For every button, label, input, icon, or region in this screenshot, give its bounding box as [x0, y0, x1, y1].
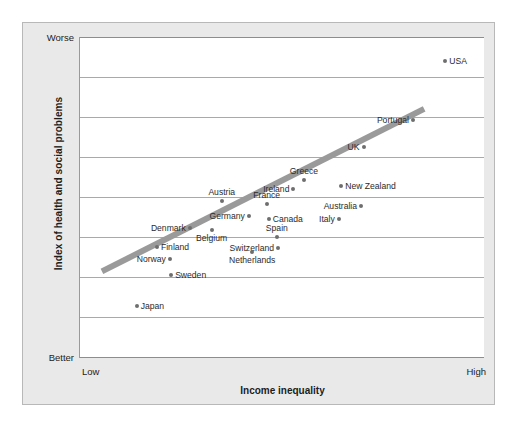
x-axis-tick-low: Low: [82, 366, 99, 377]
data-point: [267, 217, 271, 221]
data-point-label: USA: [449, 57, 467, 66]
data-point: [210, 228, 214, 232]
data-point-label: New Zealand: [345, 181, 396, 190]
y-axis-tick-better: Better: [4, 352, 74, 363]
data-point-label: Sweden: [175, 271, 206, 280]
data-point-label: France: [253, 191, 280, 200]
data-point-label: Norway: [137, 255, 166, 264]
data-point: [220, 199, 224, 203]
data-point: [188, 226, 192, 230]
data-point-label: Portugal: [377, 116, 409, 125]
data-point-label: Greece: [290, 168, 318, 177]
data-point-label: Australia: [324, 202, 357, 211]
data-point: [337, 217, 341, 221]
data-point-label: Germany: [210, 212, 245, 221]
data-point-label: Canada: [273, 214, 303, 223]
data-point-label: Netherlands: [229, 256, 275, 265]
figure-frame: Index of health and social problems Wors…: [22, 22, 495, 405]
data-point: [265, 202, 269, 206]
plot-area: USAPortugalUKGreeceNew ZealandIrelandFra…: [79, 37, 484, 358]
data-point-label: Spain: [266, 224, 288, 233]
data-point-label: Italy: [319, 214, 335, 223]
data-point-label: Belgium: [196, 234, 227, 243]
data-point: [168, 257, 172, 261]
y-axis-tick-worse: Worse: [4, 32, 74, 43]
data-point: [169, 273, 173, 277]
data-point-label: Japan: [141, 301, 164, 310]
data-point-label: Finland: [161, 242, 189, 251]
data-point-label: Denmark: [151, 223, 186, 232]
data-point: [276, 246, 280, 250]
data-point-label: Austria: [208, 188, 235, 197]
y-axis-title: Index of health and social problems: [53, 79, 64, 289]
data-point: [339, 184, 343, 188]
data-point: [135, 304, 139, 308]
data-point-label: UK: [348, 143, 360, 152]
data-point: [155, 245, 159, 249]
data-point: [275, 235, 279, 239]
x-axis-title: Income inequality: [79, 385, 486, 396]
x-axis-tick-high: High: [448, 366, 486, 377]
